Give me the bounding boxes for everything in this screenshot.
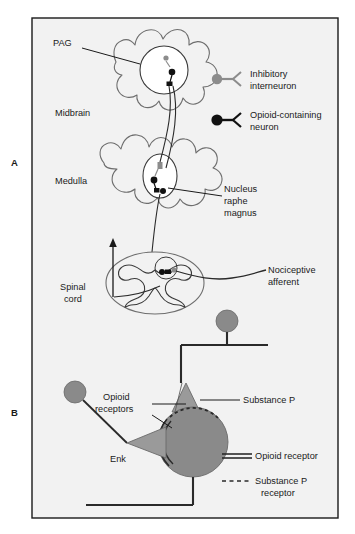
midbrain-label: Midbrain (55, 108, 90, 118)
panel-letter-a: A (11, 157, 18, 168)
nrm-synaptic-terminal (154, 188, 160, 193)
nrm-label-line2: raphe (224, 196, 248, 206)
nrm-projection-neuron-soma (160, 188, 166, 194)
substance-p-label: Substance P (243, 395, 295, 405)
enk-interneuron-soma (64, 381, 86, 403)
nrm-label-line3: magnus (224, 208, 257, 218)
nociceptive-afferent-label-line2: afferent (268, 277, 299, 287)
nrm-opioid-neuron-soma (151, 177, 158, 184)
legend-substance-p-receptor-label-line2: receptor (261, 488, 295, 498)
panelb-inhibitory-interneuron-soma (216, 310, 238, 332)
nociceptive-afferent-label-line1: Nociceptive (268, 265, 316, 275)
legend-opioid-neuron-icon (211, 114, 222, 125)
legend-opioid-neuron-label-line1: Opioid-containing (250, 110, 322, 120)
legend-inhibitory-interneuron-label-line1: Inhibitory (250, 69, 288, 79)
nrm-interneuron-terminal (158, 162, 163, 169)
pag-circle (140, 46, 188, 94)
cord-inhibitory-interneuron-soma (171, 267, 176, 272)
spinal-cord-label-line2: cord (64, 294, 82, 304)
nrm-label-line1: Nucleus (224, 184, 258, 194)
pag-inhibitory-interneuron-soma (163, 55, 168, 60)
legend-opioid-neuron-label-line2: neuron (250, 122, 279, 132)
opioid-receptors-label-line2: receptors (95, 404, 134, 414)
figure-canvas: PAG Midbrain Nucleus raphe magnus Medull… (0, 0, 355, 534)
spinal-cord-label-line1: Spinal (60, 282, 86, 292)
pag-synaptic-terminal (167, 82, 173, 87)
opioid-receptors-label-line1: Opioid (103, 392, 130, 402)
legend-inhibitory-interneuron-icon (212, 74, 222, 84)
legend-substance-p-receptor-label-line1: Substance P (255, 476, 307, 486)
legend-opioid-receptor-label: Opioid receptor (255, 451, 318, 461)
panel-letter-b: B (11, 407, 18, 418)
pag-label: PAG (53, 38, 72, 48)
enk-label: Enk (110, 454, 126, 464)
medulla-label: Medulla (55, 176, 88, 186)
legend-inhibitory-interneuron-label-line2: interneuron (250, 81, 296, 91)
cord-opioid-neuron-soma (159, 269, 165, 275)
neuroanatomy-diagram: PAG Midbrain Nucleus raphe magnus Medull… (0, 0, 355, 534)
pag-opioid-neuron-soma (169, 69, 176, 76)
